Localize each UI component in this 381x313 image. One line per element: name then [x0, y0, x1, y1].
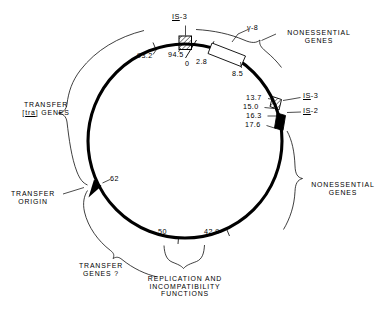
is2-right-label-suffix: -2 [311, 106, 318, 115]
leader-gamma-delta [232, 30, 248, 43]
coord-13-7-label: 13.7 [246, 94, 262, 102]
coord-8-5-label: 8.5 [232, 70, 243, 78]
nonessential-top-line2: GENES [305, 37, 333, 44]
coord-50-label: 50 [158, 228, 167, 236]
leader-is3-right [283, 98, 301, 101]
plasmid-circle [88, 44, 282, 238]
replication-line2: INCOMPATIBILITY [149, 283, 220, 290]
transfer-origin-line1: TRANSFER [11, 190, 55, 197]
coord-2-8-label: 2.8 [196, 58, 207, 66]
is3-right-label-suffix: -3 [311, 91, 318, 100]
transfer-origin-label: TRANSFERORIGIN [2, 190, 64, 205]
tick-93-2 [153, 43, 155, 49]
is2-right-label-prefix: IS [303, 106, 311, 115]
gamma-delta-8-transposon-box [208, 43, 246, 67]
coord-15-0-label: 15.0 [243, 103, 259, 111]
replication-incompatibility-label: REPLICATION ANDINCOMPATIBILITYFUNCTIONS [133, 275, 237, 298]
transfer-genes-tra: tra [25, 109, 36, 116]
tick-42-9 [227, 230, 230, 236]
is3-top-label-prefix: IS [172, 12, 180, 21]
f-plasmid-map-figure: IS-3 γ-8 NONESSENTIALGENES 93.2 94.5 0 2… [0, 0, 381, 313]
transfer-origin-line2: ORIGIN [18, 198, 48, 205]
transfer-genes-q-line1: TRANSFER [79, 262, 123, 269]
brace-nonessential-genes-right [284, 131, 303, 230]
transfer-genes-bracket-close: ] GENES [36, 109, 70, 116]
brace-replication-incompatibility [164, 245, 205, 269]
nonessential-right-line2: GENES [329, 189, 357, 196]
transfer-genes-question-label: TRANSFERGENES ? [62, 262, 140, 277]
coord-93-2-label: 93.2 [137, 52, 153, 60]
coord-0-label: 0 [185, 60, 189, 68]
is3-top-element-box [179, 36, 192, 50]
coord-17-6-label: 17.6 [245, 121, 261, 129]
is3-right-label: IS-3 [303, 92, 318, 100]
nonessential-top-line1: NONESSENTIAL [287, 29, 350, 36]
coord-42-9-label: 42.9 [204, 228, 220, 236]
leader-is2-right [287, 112, 301, 113]
gamma-delta-8-label: γ-8 [247, 24, 258, 32]
transfer-genes-q-line2: GENES ? [83, 270, 119, 277]
is2-right-element-box [275, 113, 286, 131]
nonessential-right-line1: NONESSENTIAL [311, 181, 374, 188]
is3-right-label-prefix: IS [303, 91, 311, 100]
transfer-genes-line1: TRANSFER [24, 101, 68, 108]
tick-50 [178, 238, 179, 244]
is3-top-label: IS-3 [172, 13, 187, 21]
coord-62-label: 62 [110, 175, 119, 183]
is3-top-label-suffix: -3 [180, 12, 187, 21]
coord-94-5-label: 94.5 [168, 51, 184, 59]
replication-line3: FUNCTIONS [161, 290, 209, 297]
coord-16-3-label: 16.3 [246, 112, 262, 120]
leader-62 [103, 180, 111, 184]
transfer-tra-genes-label: TRANSFER[tra] GENES [7, 101, 85, 116]
nonessential-genes-top-label: NONESSENTIALGENES [274, 29, 364, 44]
is2-right-label: IS-2 [303, 107, 318, 115]
nonessential-genes-right-label: NONESSENTIALGENES [306, 181, 380, 196]
replication-line1: REPLICATION AND [148, 275, 222, 282]
leader-transfer-origin [63, 188, 84, 195]
map-diagram-svg [0, 0, 381, 313]
